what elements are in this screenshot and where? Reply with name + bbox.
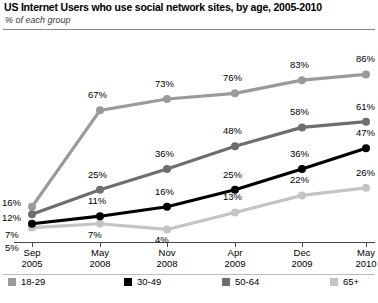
x-axis-label-line: May (70, 247, 130, 258)
legend-swatch-icon-65+ (330, 278, 338, 286)
data-label-18-29-Dec 2009: 83% (290, 59, 309, 70)
chart-title: US Internet Users who use social network… (4, 1, 322, 13)
data-label-30-49-Apr 2009: 25% (223, 169, 242, 180)
data-point-65+-May 2010 (362, 184, 370, 192)
data-label-50-64-Nov 2008: 36% (155, 148, 174, 159)
plot-area (0, 30, 378, 240)
data-point-65+-Apr 2009 (231, 208, 239, 216)
data-point-18-29-Dec 2009 (298, 76, 306, 84)
x-axis-label-line: May (336, 247, 378, 258)
data-label-30-49-May 2008: 11% (88, 195, 106, 206)
data-point-18-29-Sep 2005 (28, 203, 36, 211)
data-label-50-64-Sep 2005: 12% (2, 212, 21, 223)
chart-figure: US Internet Users who use social network… (0, 0, 378, 303)
x-axis-label-line: 2010 (336, 258, 378, 269)
data-point-50-64-May 2008 (96, 186, 104, 194)
x-axis-label-Nov 2008: Nov2008 (137, 247, 197, 269)
data-point-18-29-May 2008 (96, 106, 104, 114)
legend-divider (3, 274, 375, 275)
data-label-30-49-May 2010: 47% (356, 127, 375, 138)
data-label-65+-May 2010: 26% (356, 167, 375, 178)
data-label-18-29-Apr 2009: 76% (223, 72, 242, 83)
data-point-30-49-May 2008 (96, 212, 104, 220)
chart-legend: 18-2930-4950-6465+ (0, 276, 378, 296)
data-label-50-64-Dec 2009: 58% (290, 106, 309, 117)
x-axis-label-Dec 2009: Dec2009 (272, 247, 332, 269)
data-point-50-64-Nov 2008 (163, 165, 171, 173)
legend-label: 30-49 (137, 276, 161, 287)
data-point-50-64-Sep 2005 (28, 210, 36, 218)
x-axis-label-line: Dec (272, 247, 332, 258)
legend-label: 65+ (343, 276, 359, 287)
data-point-30-49-May 2010 (362, 144, 370, 152)
x-axis-label-May 2010: May2010 (336, 247, 378, 269)
legend-swatch-icon-50-64 (222, 278, 230, 286)
data-label-65+-Nov 2008: 4% (155, 234, 169, 245)
data-label-18-29-May 2010: 86% (356, 53, 375, 64)
x-axis-line (14, 242, 375, 243)
legend-item-50-64[interactable]: 50-64 (222, 276, 259, 287)
data-point-65+-Dec 2009 (298, 191, 306, 199)
data-label-50-64-Apr 2009: 48% (223, 125, 242, 136)
data-label-65+-May 2008: 7% (88, 229, 102, 240)
data-point-50-64-May 2010 (362, 118, 370, 126)
data-label-50-64-May 2010: 61% (356, 101, 375, 112)
data-point-30-49-Sep 2005 (28, 220, 36, 228)
data-label-30-49-Nov 2008: 16% (155, 186, 174, 197)
x-axis-label-line: 2005 (2, 258, 62, 269)
x-axis-label-line: 2009 (272, 258, 332, 269)
data-point-30-49-Dec 2009 (298, 165, 306, 173)
legend-swatch-icon-30-49 (124, 278, 132, 286)
data-point-18-29-Apr 2009 (231, 89, 239, 97)
x-axis-label-line: Nov (137, 247, 197, 258)
data-label-65+-Sep 2005: 5% (5, 242, 19, 253)
data-point-65+-May 2008 (96, 220, 104, 228)
data-label-65+-Dec 2009: 22% (290, 174, 309, 185)
data-label-18-29-Nov 2008: 73% (155, 78, 174, 89)
legend-label: 18-29 (21, 276, 45, 287)
legend-item-65+[interactable]: 65+ (330, 276, 359, 287)
line-chart-svg (0, 30, 378, 240)
x-axis-label-May 2008: May2008 (70, 247, 130, 269)
data-label-30-49-Sep 2005: 7% (5, 229, 19, 240)
data-point-50-64-Dec 2009 (298, 123, 306, 131)
data-label-65+-Apr 2009: 13% (223, 191, 242, 202)
x-axis-label-line: 2008 (137, 258, 197, 269)
legend-swatch-icon-18-29 (8, 278, 16, 286)
series-line-65+ (32, 188, 366, 230)
data-label-50-64-May 2008: 25% (88, 169, 107, 180)
x-axis-label-line: 2008 (70, 258, 130, 269)
legend-item-18-29[interactable]: 18-29 (8, 276, 45, 287)
data-label-18-29-May 2008: 67% (88, 89, 107, 100)
data-point-50-64-Apr 2009 (231, 142, 239, 150)
chart-subtitle: % of each group (5, 15, 71, 25)
legend-label: 50-64 (235, 276, 259, 287)
data-label-18-29-Sep 2005: 16% (2, 197, 21, 208)
data-label-30-49-Dec 2009: 36% (290, 148, 309, 159)
series-line-18-29 (32, 74, 366, 206)
data-point-65+-Nov 2008 (163, 225, 171, 233)
data-point-18-29-May 2010 (362, 70, 370, 78)
x-axis-label-line: Apr (205, 247, 265, 258)
x-axis-label-line: 2009 (205, 258, 265, 269)
data-point-18-29-Nov 2008 (163, 95, 171, 103)
data-point-30-49-Nov 2008 (163, 203, 171, 211)
legend-item-30-49[interactable]: 30-49 (124, 276, 161, 287)
x-axis-label-Apr 2009: Apr2009 (205, 247, 265, 269)
